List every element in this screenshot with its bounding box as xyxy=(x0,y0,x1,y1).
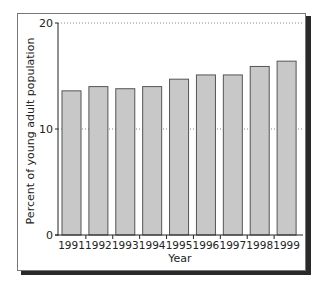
bar-1996 xyxy=(196,75,215,235)
bar-1992 xyxy=(89,87,108,235)
bar-1999 xyxy=(277,61,296,235)
x-tick-label: 1992 xyxy=(85,239,112,251)
bars xyxy=(62,61,296,235)
bar-1995 xyxy=(170,79,189,235)
x-tick-label: 1999 xyxy=(273,239,300,251)
y-tick-label: 0 xyxy=(46,229,53,242)
y-tick-label: 10 xyxy=(39,123,53,136)
x-tick-label: 1994 xyxy=(139,239,166,251)
bar-1998 xyxy=(250,66,269,235)
x-tick-label: 1998 xyxy=(246,239,273,251)
y-tick-label: 20 xyxy=(39,17,53,30)
bar-chart: 01020 1991199219931994199519961997199819… xyxy=(0,0,327,287)
bar-1997 xyxy=(223,75,242,235)
x-tick-label: 1997 xyxy=(219,239,246,251)
x-tick-label: 1993 xyxy=(112,239,139,251)
bar-1993 xyxy=(116,89,135,235)
x-tick-label: 1995 xyxy=(166,239,193,251)
x-tick-label: 1996 xyxy=(193,239,220,251)
x-axis-title: Year xyxy=(167,252,192,265)
x-tick-label: 1991 xyxy=(58,239,85,251)
bar-1994 xyxy=(143,87,162,235)
x-axis-ticks: 199119921993199419951996199719981999 xyxy=(58,235,300,251)
y-axis-title: Percent of young adult population xyxy=(24,38,37,225)
y-axis-ticks: 01020 xyxy=(39,17,58,242)
bar-1991 xyxy=(62,91,81,235)
